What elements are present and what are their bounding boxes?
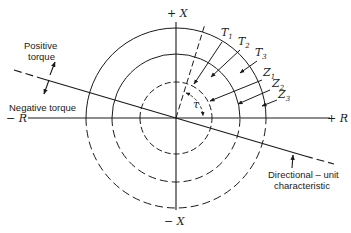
negative-torque-arrow-icon [44, 80, 49, 94]
directional-pointer-arrow-icon [292, 155, 293, 168]
plus-r-label: + R [327, 112, 348, 125]
directional-characteristic [14, 70, 334, 164]
tau-label: τ [193, 98, 200, 111]
positive-torque-label-line1: Positive [24, 40, 57, 51]
pointer-T1 [194, 42, 222, 84]
pointer-Z1 [210, 80, 262, 101]
curve-labels: T1 T2 T3 Z1 Z2 Z3 [221, 26, 291, 103]
negative-torque-label: Negative torque [9, 102, 76, 113]
label-Z3: Z3 [277, 88, 291, 103]
directional-label-line1: Directional – unit [268, 169, 339, 180]
label-T2: T2 [238, 35, 250, 50]
directional-label-line2: characteristic [274, 180, 330, 191]
positive-torque-arrow-icon [50, 62, 55, 75]
pointer-Z2 [238, 90, 270, 104]
positive-torque-label-line2: torque [28, 51, 55, 62]
label-T1: T1 [221, 26, 233, 41]
label-T3: T3 [255, 46, 267, 61]
torque-angle-line [176, 24, 205, 118]
pointer-T2 [211, 50, 240, 77]
pointer-T3 [240, 61, 257, 73]
minus-x-label: − X [164, 215, 186, 228]
plus-x-label: + X [167, 7, 189, 20]
minus-r-label: − R [6, 112, 27, 125]
impedance-relay-diagram: τ T1 T2 T3 Z1 Z2 Z3 + X − X + R − R Posi… [0, 0, 351, 233]
